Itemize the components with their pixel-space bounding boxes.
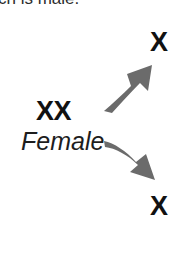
genetics-diagram-figure: ch is male. XX Female X X: [0, 0, 174, 258]
parent-genotype-label: XX: [36, 97, 71, 125]
gamete-label-top: X: [150, 28, 168, 56]
gamete-label-bottom: X: [150, 192, 168, 220]
arrow-to-bottom-gamete-icon: [104, 141, 155, 180]
parent-sex-label: Female: [21, 128, 104, 155]
arrow-to-top-gamete-icon: [104, 65, 152, 113]
